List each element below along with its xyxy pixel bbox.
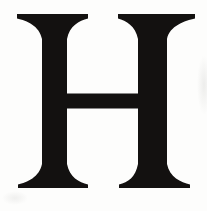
letter-h-image <box>0 0 207 211</box>
scanned-letter-page <box>0 0 207 211</box>
